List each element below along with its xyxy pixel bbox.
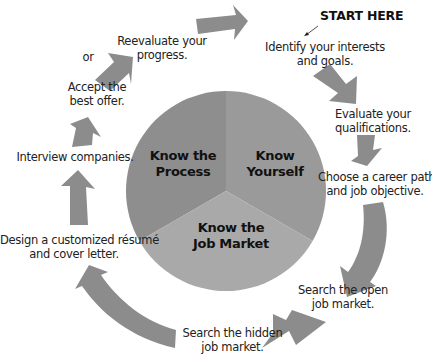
step-interview-line1: Interview companies.: [10, 150, 140, 164]
arrow-icon-to-interview: [61, 170, 95, 225]
step-identify-line1: Identify your interests: [250, 40, 400, 54]
step-reevaluate-line1: Reevaluate your: [112, 34, 212, 48]
step-search-open: Search the open job market.: [288, 283, 398, 311]
step-identify-line2: and goals.: [250, 54, 400, 68]
step-search-open-line2: job market.: [288, 297, 398, 311]
pie-label-process: Know the Process: [148, 148, 218, 180]
step-accept-line2: best offer.: [62, 94, 132, 108]
pie-label-job-market: Know the Job Market: [186, 220, 276, 252]
step-choose: Choose a career path and job objective.: [318, 170, 432, 198]
pie-label-yourself: Know Yourself: [240, 148, 310, 180]
step-search-open-line1: Search the open: [288, 283, 398, 297]
step-design-line1: Design a customized résumé: [0, 233, 148, 247]
step-choose-line1: Choose a career path: [318, 170, 432, 184]
step-design-line2: and cover letter.: [0, 247, 148, 261]
pie-label-job-market-line2: Job Market: [186, 236, 276, 252]
step-choose-line2: and job objective.: [318, 184, 432, 198]
step-identify: Identify your interests and goals.: [250, 40, 400, 68]
step-evaluate-line2: qualifications.: [318, 121, 428, 135]
pie-label-yourself-line1: Know: [240, 148, 310, 164]
step-accept-line1: Accept the: [62, 80, 132, 94]
pie-label-yourself-line2: Yourself: [240, 164, 310, 180]
pie-label-process-line1: Know the: [148, 148, 218, 164]
center-pie: [126, 91, 326, 291]
or-connector: or: [80, 50, 96, 64]
arrow-icon-to-accept: [70, 117, 101, 147]
arrow-icon-to-evaluate: [313, 64, 357, 104]
step-evaluate: Evaluate your qualifications.: [318, 107, 428, 135]
cropped-heading: [90, 0, 250, 2]
step-accept: Accept the best offer.: [62, 80, 132, 108]
arrow-icon-to-design: [75, 265, 176, 348]
step-search-hidden-line2: job market.: [175, 340, 290, 354]
pie-label-process-line2: Process: [148, 164, 218, 180]
step-search-hidden: Search the hidden job market.: [175, 326, 290, 354]
arrow-icon-to-choose: [351, 135, 382, 166]
pie-label-job-market-line1: Know the: [186, 220, 276, 236]
start-here-label: START HERE: [320, 8, 403, 23]
start-pointer-arrowhead: [304, 32, 309, 36]
step-search-hidden-line1: Search the hidden: [175, 326, 290, 340]
step-reevaluate: Reevaluate your progress.: [112, 34, 212, 62]
step-interview: Interview companies.: [10, 150, 140, 164]
step-evaluate-line1: Evaluate your: [318, 107, 428, 121]
step-reevaluate-line2: progress.: [112, 48, 212, 62]
step-design: Design a customized résumé and cover let…: [0, 233, 148, 261]
